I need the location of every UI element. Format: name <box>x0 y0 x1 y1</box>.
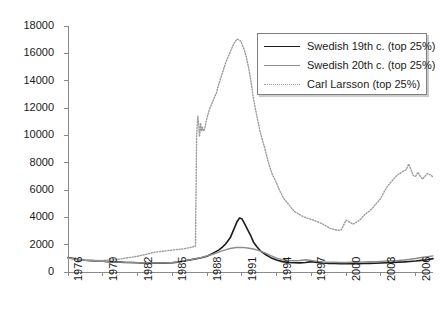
legend-item-swedish-20th[interactable]: Swedish 20th c. (top 25%) <box>264 56 435 74</box>
legend-item-carl-larsson[interactable]: Carl Larsson (top 25%) <box>264 75 420 93</box>
x-axis-tick-label: 2000 <box>351 257 362 281</box>
x-axis-tick-label: 1979 <box>108 257 119 281</box>
y-axis-tick-label: 12000 <box>0 102 54 113</box>
y-axis-tick-label: 0 <box>0 266 54 277</box>
y-axis-tick-label: 4000 <box>0 211 54 222</box>
chart-container: 0200040006000800010000120001400016000180… <box>0 0 440 324</box>
y-axis-tick-label: 14000 <box>0 75 54 86</box>
y-axis-tick-label: 8000 <box>0 157 54 168</box>
legend-swatch-icon <box>264 41 300 51</box>
x-axis-tick-label: 2003 <box>386 257 397 281</box>
chart-legend: Swedish 19th c. (top 25%) Swedish 20th c… <box>257 33 427 95</box>
x-axis-tick-label: 1991 <box>247 257 258 281</box>
x-axis-tick-label: 1997 <box>316 257 327 281</box>
x-axis-tick-label: 1982 <box>143 257 154 281</box>
x-axis-tick-label: 1988 <box>212 257 223 281</box>
legend-label: Swedish 20th c. (top 25%) <box>307 60 435 71</box>
x-axis-tick-label: 1985 <box>177 257 188 281</box>
x-axis-tick-label: 2006 <box>421 257 432 281</box>
y-axis-tick-label: 18000 <box>0 20 54 31</box>
legend-item-swedish-19th[interactable]: Swedish 19th c. (top 25%) <box>264 37 435 55</box>
legend-swatch-icon <box>264 79 300 89</box>
y-axis-tick-label: 2000 <box>0 239 54 250</box>
x-axis-tick-label: 1994 <box>282 257 293 281</box>
y-axis-tick-label: 10000 <box>0 129 54 140</box>
y-axis-tick-label: 6000 <box>0 184 54 195</box>
y-axis-tick-label: 16000 <box>0 47 54 58</box>
legend-swatch-icon <box>264 60 300 70</box>
legend-label: Swedish 19th c. (top 25%) <box>307 41 435 52</box>
legend-label: Carl Larsson (top 25%) <box>307 79 420 90</box>
x-axis-tick-label: 1976 <box>73 257 84 281</box>
